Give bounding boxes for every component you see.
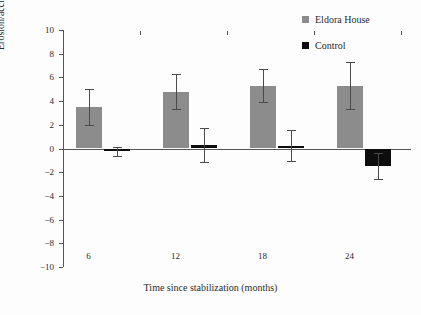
error-bar-line: [204, 128, 205, 161]
error-bar-cap: [85, 89, 94, 90]
y-tick: [59, 267, 63, 268]
y-tick-label: −2: [28, 168, 54, 177]
x-tick-label: 6: [75, 252, 103, 261]
error-bar-cap: [113, 156, 122, 157]
error-bar-line: [378, 153, 379, 179]
error-bar-line: [263, 69, 264, 102]
y-tick: [59, 101, 63, 102]
legend-label-eldora-house: Eldora House: [315, 14, 370, 25]
x-tick: [227, 31, 228, 35]
x-tick: [140, 31, 141, 35]
error-bar-cap: [85, 125, 94, 126]
y-tick-label: −6: [28, 216, 54, 225]
legend-label-control: Control: [315, 40, 346, 51]
error-bar-line: [117, 147, 118, 155]
x-tick-label: 18: [249, 252, 277, 261]
x-tick-label: 12: [162, 252, 190, 261]
y-tick: [59, 149, 63, 150]
error-bar-line: [291, 130, 292, 161]
y-tick-label: 0: [28, 145, 54, 154]
y-tick: [59, 54, 63, 55]
y-axis-title: Erosion/accretion (cm ± SE): [0, 0, 6, 50]
y-tick-label: −8: [28, 239, 54, 248]
chart-legend: Eldora House Control: [302, 14, 421, 66]
error-bar-cap: [346, 109, 355, 110]
y-tick: [59, 172, 63, 173]
x-tick-label: 24: [336, 252, 364, 261]
error-bar-cap: [200, 162, 209, 163]
y-tick-label: −4: [28, 192, 54, 201]
legend-swatch-icon-control: [302, 42, 309, 49]
error-bar-line: [176, 74, 177, 110]
error-bar-cap: [172, 74, 181, 75]
error-bar-cap: [374, 179, 383, 180]
legend-item-eldora-house: Eldora House: [302, 14, 421, 25]
error-bar-cap: [172, 109, 181, 110]
chart-figure: 1086420−2−4−6−8−10 6121824 Erosion/accre…: [0, 0, 421, 315]
legend-item-control: Control: [302, 40, 421, 51]
y-tick-label: 10: [28, 26, 54, 35]
error-bar-cap: [259, 102, 268, 103]
error-bar-cap: [287, 161, 296, 162]
error-bar-cap: [287, 130, 296, 131]
x-axis-title: Time since stabilization (months): [0, 282, 421, 293]
error-bar-cap: [113, 147, 122, 148]
y-tick: [59, 77, 63, 78]
y-tick: [59, 125, 63, 126]
error-bar-cap: [259, 69, 268, 70]
y-tick: [59, 220, 63, 221]
y-tick-label: −10: [28, 263, 54, 272]
y-tick: [59, 30, 63, 31]
error-bar-cap: [374, 153, 383, 154]
y-tick-label: 2: [28, 121, 54, 130]
error-bar-line: [350, 62, 351, 109]
legend-swatch-icon-eldora-house: [302, 16, 309, 23]
y-tick-label: 8: [28, 50, 54, 59]
y-tick: [59, 196, 63, 197]
y-tick: [59, 243, 63, 244]
error-bar-line: [89, 89, 90, 125]
y-tick-label: 4: [28, 97, 54, 106]
error-bar-cap: [200, 128, 209, 129]
y-tick-label: 6: [28, 73, 54, 82]
